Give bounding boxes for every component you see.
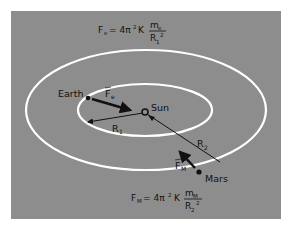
earth-force-arrow <box>92 99 130 110</box>
svg-text:R: R <box>112 123 119 134</box>
earth-label: Earth <box>58 88 83 99</box>
svg-text:2: 2 <box>191 207 195 213</box>
earth-force-label: F e <box>105 87 115 100</box>
svg-text:M: M <box>137 198 142 204</box>
svg-text:2: 2 <box>196 200 200 206</box>
sun-label: Sun <box>151 102 169 113</box>
r2-label: R 2 <box>197 138 208 151</box>
svg-text:2: 2 <box>133 24 137 30</box>
svg-text:K: K <box>174 193 181 203</box>
svg-text:= 4π: = 4π <box>109 25 131 35</box>
orbit-diagram: Earth Sun Mars F e F M R 1 R 2 F e = 4π … <box>0 0 293 226</box>
r1-arrow <box>88 113 143 122</box>
formula-mars: F M = 4π 2 K m M R 2 2 <box>131 188 202 213</box>
svg-text:2: 2 <box>204 144 208 151</box>
svg-text:1: 1 <box>119 128 123 135</box>
r1-label: R 1 <box>112 123 123 135</box>
svg-text:F: F <box>131 193 136 203</box>
earth-marker <box>86 96 91 101</box>
svg-text:F: F <box>105 88 110 99</box>
svg-text:2: 2 <box>160 32 164 38</box>
mars-orbit <box>26 50 266 170</box>
svg-text:F: F <box>98 25 103 35</box>
svg-text:= 4π: = 4π <box>143 193 165 203</box>
svg-text:M: M <box>193 193 198 199</box>
svg-text:K: K <box>138 25 145 35</box>
sun-marker <box>142 109 148 115</box>
svg-text:1: 1 <box>156 39 160 45</box>
formula-earth: F e = 4π 2 K m e R 1 2 <box>98 20 166 45</box>
svg-text:F: F <box>175 160 180 171</box>
r2-arrowhead <box>148 115 155 121</box>
mars-force-label: F M <box>175 159 186 172</box>
svg-text:e: e <box>111 93 115 100</box>
svg-text:2: 2 <box>168 192 172 198</box>
mars-marker <box>196 169 201 174</box>
svg-text:R: R <box>197 138 204 149</box>
earth-orbit <box>78 84 212 136</box>
svg-text:e: e <box>104 30 108 36</box>
svg-text:e: e <box>158 25 162 31</box>
mars-label: Mars <box>205 173 228 184</box>
svg-text:M: M <box>181 165 186 172</box>
